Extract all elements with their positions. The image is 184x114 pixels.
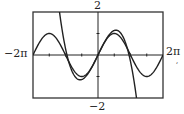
y-max-label: 2 xyxy=(94,0,101,11)
x-min-label: −2π xyxy=(4,48,27,59)
y-min-label: −2 xyxy=(89,101,105,112)
trailing-punctuation: , xyxy=(176,58,178,65)
x-max-label: 2π xyxy=(166,46,180,57)
graph-canvas xyxy=(0,0,184,114)
